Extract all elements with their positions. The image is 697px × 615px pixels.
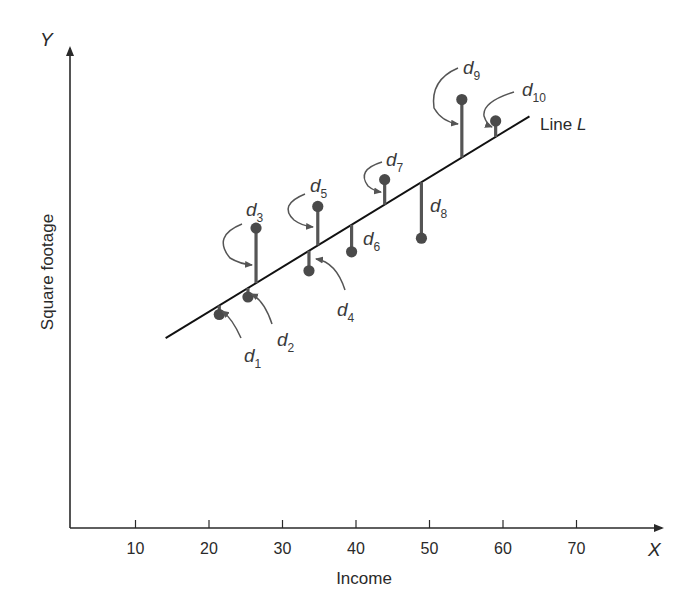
data-point [490,115,501,126]
data-point [242,291,253,302]
residual-label-d5: d5 [310,175,328,201]
residual-label-d10: d10 [522,79,546,105]
x-tick-label: 10 [127,540,145,557]
data-point [379,174,390,185]
residual-label-d8: d8 [430,195,448,221]
x-tick-label: 60 [494,540,512,557]
x-tick-label: 40 [347,540,365,557]
residual-label-d2: d2 [277,329,295,355]
y-axis-letter: Y [40,29,54,50]
data-point [346,246,357,257]
residuals [214,94,502,320]
data-point [303,265,314,276]
residual-label-d1: d1 [244,345,262,371]
data-point [416,233,427,244]
leader-arrow [288,194,313,227]
residual-label-d3: d3 [246,199,264,225]
x-tick-label: 70 [568,540,586,557]
data-point [312,201,323,212]
residual-label-d4: d4 [337,299,355,325]
x-tick-label: 30 [274,540,292,557]
leader-arrow [251,294,272,324]
residual-label-d9: d9 [463,57,481,83]
leader-arrow [434,68,459,124]
data-point [456,94,467,105]
y-axis-label: Square footage [38,214,57,330]
axes: Y X 10203040506070 Income Square footage [38,29,662,588]
scatter-chart: Y X 10203040506070 Income Square footage… [0,0,697,615]
x-tick-label: 20 [200,540,218,557]
leader-arrow [223,224,252,265]
x-tick-label: 50 [421,540,439,557]
x-axis-label: Income [336,569,392,588]
line-l-label: Line L [540,115,586,134]
leader-arrow [364,162,382,192]
residual-label-d6: d6 [363,228,381,254]
x-axis-letter: X [647,539,662,560]
data-point [214,309,225,320]
residual-label-d7: d7 [386,149,404,175]
annotation-leaders [222,68,514,338]
x-ticks: 10203040506070 [127,520,586,557]
leader-arrow [316,259,345,290]
